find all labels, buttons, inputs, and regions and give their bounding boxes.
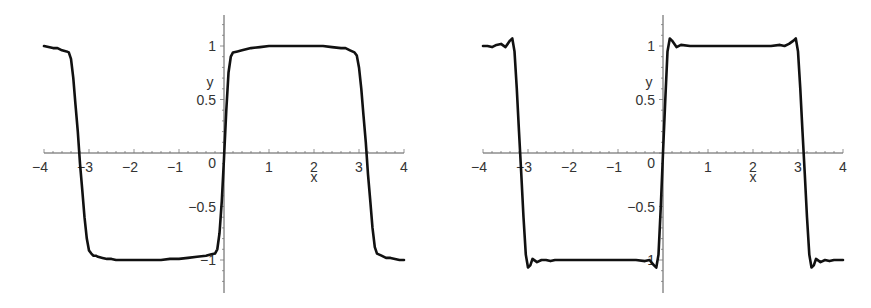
origin-label: 0 — [208, 155, 216, 171]
origin-label: 0 — [647, 155, 655, 171]
x-tick-label: −2 — [561, 159, 577, 175]
x-tick-label: −1 — [167, 159, 183, 175]
x-tick-label: −3 — [516, 159, 532, 175]
y-tick-label: −0.5 — [188, 199, 216, 215]
y-tick-label: 1 — [208, 38, 216, 54]
plot-left: −4−3−2−1123410.5−0.5−10xy — [32, 15, 408, 293]
y-tick-label: −0.5 — [627, 199, 655, 215]
x-tick-label: 4 — [400, 159, 408, 175]
y-axis-label: y — [207, 74, 214, 90]
x-tick-label: 1 — [704, 159, 712, 175]
x-tick-label: −4 — [471, 159, 487, 175]
x-tick-label: 3 — [355, 159, 363, 175]
x-axis-label: x — [750, 169, 757, 185]
x-tick-label: −1 — [606, 159, 622, 175]
x-tick-label: −2 — [122, 159, 138, 175]
x-axis-label: x — [311, 169, 318, 185]
y-tick-label: 0.5 — [197, 92, 217, 108]
figure: −4−3−2−1123410.5−0.5−10xy −4−3−2−1123410… — [0, 0, 871, 308]
x-tick-label: 3 — [794, 159, 802, 175]
y-tick-label: 0.5 — [636, 92, 656, 108]
plot-right: −4−3−2−1123410.5−0.5−10xy — [471, 15, 847, 293]
x-tick-label: −4 — [32, 159, 48, 175]
x-tick-label: 1 — [265, 159, 273, 175]
x-tick-label: 4 — [839, 159, 847, 175]
y-tick-label: 1 — [647, 38, 655, 54]
y-axis-label: y — [646, 74, 653, 90]
